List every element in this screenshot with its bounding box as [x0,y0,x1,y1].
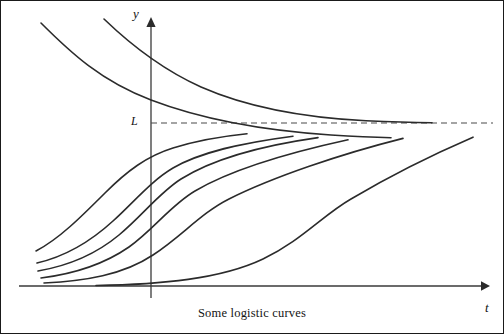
asymptote-label: L [131,115,138,127]
t-axis-arrowhead [481,281,490,291]
logistic-curves-plot [1,1,504,334]
figure-container: y t L Some logistic curves [0,0,504,334]
y-axis-arrowhead [146,17,155,27]
figure-caption: Some logistic curves [1,306,503,321]
logistic-curve-5 [44,138,403,283]
decaying-curve-1 [41,23,391,138]
decaying-curve-2 [104,19,432,123]
logistic-curve-2 [37,136,293,263]
y-axis-label: y [133,7,139,20]
logistic-curve-6 [96,137,473,285]
logistic-curve-4 [41,140,348,278]
axes-group [19,17,490,298]
